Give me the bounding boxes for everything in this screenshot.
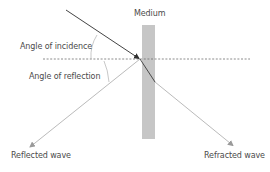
- medium-slab: [142, 25, 155, 139]
- refracted-ray: [155, 82, 233, 146]
- diagram-canvas: [0, 0, 270, 172]
- medium-label: Medium: [134, 10, 165, 18]
- angle-of-reflection-arc: [104, 61, 109, 82]
- incident-ray: [66, 10, 139, 59]
- angle-of-incidence-label: Angle of incidence: [20, 43, 92, 51]
- reflected-wave-label: Reflected wave: [11, 152, 71, 160]
- angle-of-reflection-label: Angle of reflection: [29, 73, 100, 81]
- reflection-refraction-diagram: Medium Angle of incidence Angle of refle…: [0, 0, 270, 172]
- refracted-wave-label: Refracted wave: [204, 152, 265, 160]
